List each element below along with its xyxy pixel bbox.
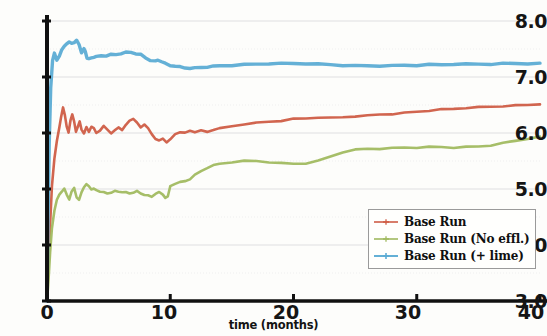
ytick-label-6: 6.0 xyxy=(503,124,547,143)
legend-item-base-run[interactable]: Base Run xyxy=(373,213,531,230)
legend-line-swatch-base-run xyxy=(373,216,399,228)
legend-label-plus-lime: Base Run (+ lime) xyxy=(404,249,524,263)
legend-item-plus-lime[interactable]: Base Run (+ lime) xyxy=(373,247,531,264)
ytick-label-5: 5.0 xyxy=(503,180,547,199)
legend-line-swatch-no-effl xyxy=(373,233,399,245)
legend-item-no-effl[interactable]: Base Run (No effl.) xyxy=(373,230,531,247)
chart-plot-area xyxy=(0,0,547,336)
legend-label-base-run: Base Run xyxy=(404,215,466,229)
chart-figure: 8.0 7.0 6.0 5.0 4.0 3.0 0 10 20 30 40 ti… xyxy=(0,0,547,336)
ytick-label-7: 7.0 xyxy=(503,68,547,87)
x-axis-title: time (months) xyxy=(0,318,547,332)
ytick-label-8: 8.0 xyxy=(503,12,547,31)
legend-line-swatch-plus-lime xyxy=(373,250,399,262)
legend-label-no-effl: Base Run (No effl.) xyxy=(404,232,530,246)
chart-legend: Base Run Base Run (No effl.) Base Run (+… xyxy=(368,209,536,269)
